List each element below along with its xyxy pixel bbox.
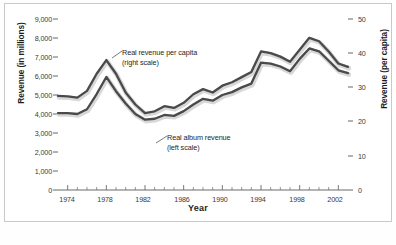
axis-ticks-left (53, 19, 58, 190)
chart-series-group (58, 38, 349, 121)
chart-figure: Revenue (in millions) Revenue (per capit… (0, 0, 396, 245)
axis-ticks-right (348, 19, 353, 190)
x-axis-minor-ticks (68, 185, 339, 190)
chart-plot-svg (0, 0, 396, 245)
series-shadow-1 (59, 39, 349, 114)
